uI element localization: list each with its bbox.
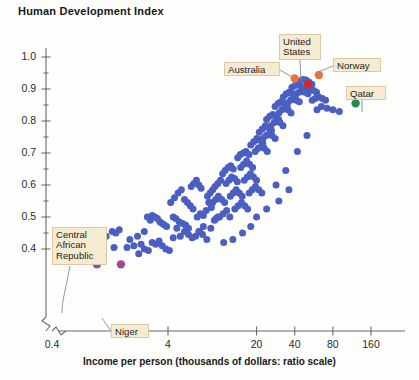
data-point <box>220 239 227 246</box>
annotation-leader-line <box>280 70 292 77</box>
annotation-label-norway: Norway <box>333 58 381 72</box>
data-point <box>272 135 279 142</box>
y-axis-tick-label: 1.0 <box>6 50 36 62</box>
chart-figure: Human Development Index Income per perso… <box>0 0 419 380</box>
data-point <box>275 198 282 205</box>
data-point <box>116 226 123 233</box>
annotation-label-australia: Australia <box>224 62 280 76</box>
data-point <box>163 223 170 230</box>
x-axis-tick-label: 0.4 <box>35 338 69 350</box>
data-point <box>134 233 141 240</box>
highlighted-data-point-niger <box>117 260 125 268</box>
data-point <box>170 234 177 241</box>
highlighted-data-point-qatar <box>351 99 359 107</box>
data-point <box>282 167 289 174</box>
data-point <box>198 185 205 192</box>
data-point <box>322 97 329 104</box>
data-point <box>207 225 214 232</box>
data-point <box>130 242 137 249</box>
scatter-plot-canvas <box>0 0 419 380</box>
data-point <box>253 214 260 221</box>
annotation-label-united: United States <box>279 34 321 60</box>
data-point <box>249 164 256 171</box>
data-point <box>234 178 241 185</box>
data-point <box>190 206 197 213</box>
data-point <box>135 250 142 257</box>
y-axis-tick-label: 0.5 <box>6 210 36 222</box>
scatter-series <box>93 76 342 268</box>
x-axis-title: Income per person (thousands of dollars:… <box>0 356 419 367</box>
data-point <box>285 186 292 193</box>
annotation-leader-line <box>62 266 70 313</box>
data-point <box>166 247 173 254</box>
data-point <box>126 236 133 243</box>
data-point <box>124 244 131 251</box>
data-point <box>226 214 233 221</box>
y-axis-tick-label: 0.9 <box>6 82 36 94</box>
data-point <box>303 132 310 139</box>
data-point <box>288 110 295 117</box>
x-axis-tick-label: 4 <box>151 338 185 350</box>
data-point <box>245 151 252 158</box>
annotation-leader-line <box>318 66 333 72</box>
data-point <box>223 207 230 214</box>
data-point <box>141 228 148 235</box>
annotation-leader-line <box>102 318 111 331</box>
data-point <box>239 193 246 200</box>
data-point <box>263 206 270 213</box>
data-point <box>258 190 265 197</box>
data-point <box>244 206 251 213</box>
x-axis-tick-label: 40 <box>278 338 312 350</box>
data-point <box>279 122 286 129</box>
data-point <box>253 177 260 184</box>
y-axis-tick-label: 0.8 <box>6 114 36 126</box>
data-point <box>247 223 254 230</box>
annotation-label-niger: Niger <box>111 324 149 338</box>
data-point <box>221 199 228 206</box>
data-point <box>273 182 280 189</box>
x-axis-tick-label: 20 <box>240 338 274 350</box>
highlighted-data-point-australia <box>291 74 299 82</box>
data-point <box>111 244 118 251</box>
data-point <box>230 166 237 173</box>
x-axis-tick-label: 160 <box>354 338 388 350</box>
highlighted-data-point-united-states <box>304 80 312 88</box>
data-point <box>178 186 185 193</box>
x-axis-tick-label: 80 <box>316 338 350 350</box>
y-axis-tick-label: 0.7 <box>6 146 36 158</box>
data-point <box>229 236 236 243</box>
y-axis-tick-label: 0.4 <box>6 242 36 254</box>
y-axis-tick-label: 0.6 <box>6 178 36 190</box>
data-point <box>145 247 152 254</box>
data-point <box>264 148 271 155</box>
annotation-label-central: Central African Republic <box>52 227 107 265</box>
data-point <box>329 106 336 113</box>
data-point <box>173 225 180 232</box>
annotation-label-qatar: Qatar <box>346 86 386 100</box>
data-point <box>203 236 210 243</box>
data-point <box>294 148 301 155</box>
data-point <box>239 230 246 237</box>
data-point <box>336 108 343 115</box>
data-point <box>296 98 303 105</box>
